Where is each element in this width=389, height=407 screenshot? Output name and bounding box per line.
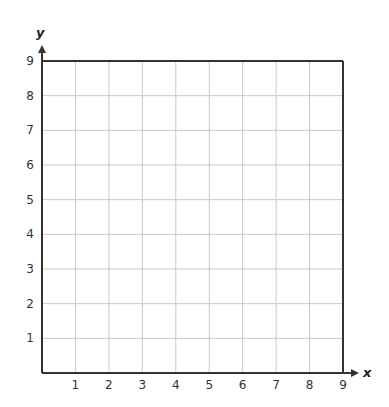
axis-arrows <box>38 45 359 377</box>
x-axis-arrow-icon <box>351 369 359 377</box>
y-tick-label: 7 <box>26 123 34 137</box>
y-axis-label: y <box>36 25 45 40</box>
y-tick-label: 5 <box>26 193 34 207</box>
x-tick-label: 1 <box>72 378 80 392</box>
y-tick-label: 1 <box>26 331 34 345</box>
x-tick-label: 7 <box>272 378 280 392</box>
coordinate-grid: 123456789 123456789 x y <box>0 0 389 407</box>
y-tick-labels: 123456789 <box>26 54 34 345</box>
y-axis-arrow-icon <box>38 45 46 53</box>
x-tick-label: 2 <box>105 378 113 392</box>
y-tick-label: 8 <box>26 89 34 103</box>
grid-lines <box>42 61 343 373</box>
x-tick-label: 9 <box>339 378 347 392</box>
plot-frame <box>42 50 355 373</box>
y-tick-label: 2 <box>26 297 34 311</box>
x-axis-label: x <box>362 365 372 380</box>
y-tick-label: 9 <box>26 54 34 68</box>
x-tick-labels: 123456789 <box>72 378 347 392</box>
x-tick-label: 8 <box>306 378 314 392</box>
y-tick-label: 4 <box>26 227 34 241</box>
y-tick-label: 6 <box>26 158 34 172</box>
x-tick-label: 3 <box>139 378 147 392</box>
x-tick-label: 6 <box>239 378 247 392</box>
y-tick-label: 3 <box>26 262 34 276</box>
x-tick-label: 5 <box>205 378 213 392</box>
x-tick-label: 4 <box>172 378 180 392</box>
